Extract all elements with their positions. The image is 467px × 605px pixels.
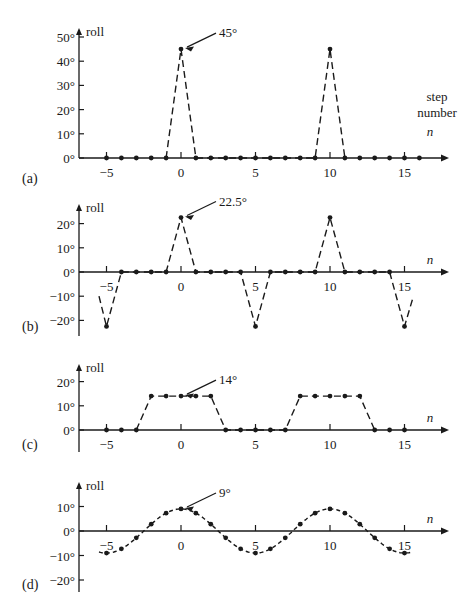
- data-point: [387, 270, 392, 275]
- data-point: [298, 270, 303, 275]
- data-point: [164, 270, 169, 275]
- annotation-arrow: [187, 202, 216, 216]
- data-point: [194, 156, 199, 161]
- y-tick-label: 0°: [63, 151, 75, 166]
- x-axis-arrow-icon: [441, 155, 449, 162]
- data-point: [283, 428, 288, 433]
- y-tick-label: 40°: [57, 54, 75, 69]
- panel-label: (b): [22, 319, 39, 335]
- data-point: [328, 215, 333, 220]
- plots-canvas: rollstepnumbern0°10°20°30°40°50°−5051015…: [0, 0, 467, 605]
- x-axis-label-n: n: [427, 252, 434, 267]
- data-point: [119, 546, 124, 551]
- x-tick-label: 0: [178, 165, 185, 180]
- y-axis-arrow-icon: [76, 204, 82, 211]
- y-tick-label: −10°: [49, 549, 75, 564]
- data-point: [134, 428, 139, 433]
- y-tick-label: 10°: [57, 500, 75, 515]
- annotation-label: 9°: [219, 485, 231, 500]
- y-tick-label: −20°: [49, 573, 75, 588]
- data-point: [283, 270, 288, 275]
- data-point: [298, 394, 303, 399]
- data-point: [149, 156, 154, 161]
- data-point: [179, 47, 184, 52]
- y-tick-label: 20°: [57, 217, 75, 232]
- data-point: [372, 428, 377, 433]
- data-point: [387, 428, 392, 433]
- annotation-label: 14°: [219, 372, 237, 387]
- y-tick-label: 10°: [57, 127, 75, 142]
- y-tick-label: −10°: [49, 289, 75, 304]
- data-point: [238, 270, 243, 275]
- panel-label: (a): [22, 171, 38, 187]
- panel-d: rolln−20°−10°0°10°−50510159°(d): [22, 478, 449, 593]
- x-axis-label-line2: number: [417, 105, 457, 120]
- data-point: [149, 522, 154, 527]
- annotation-arrowhead-icon: [185, 215, 194, 220]
- data-point: [223, 270, 228, 275]
- panel-a: rollstepnumbern0°10°20°30°40°50°−5051015…: [22, 24, 458, 187]
- data-point: [104, 428, 109, 433]
- data-point: [372, 270, 377, 275]
- data-point: [357, 270, 362, 275]
- panel-c: rolln0°10°20°−505101514°(c): [22, 360, 449, 453]
- data-point: [134, 270, 139, 275]
- data-point: [164, 394, 169, 399]
- data-point: [387, 546, 392, 551]
- y-tick-label: −20°: [49, 313, 75, 328]
- data-point: [268, 546, 273, 551]
- annotation-label: 45°: [219, 25, 237, 40]
- data-point: [402, 156, 407, 161]
- data-point: [298, 156, 303, 161]
- x-tick-label: 0: [178, 538, 185, 553]
- data-point: [119, 270, 124, 275]
- y-tick-label: 0°: [63, 423, 75, 438]
- data-point: [238, 546, 243, 551]
- data-point: [208, 270, 213, 275]
- y-axis-arrow-icon: [76, 28, 82, 35]
- x-tick-label: 0: [178, 279, 185, 294]
- dashed-roll-curve: [166, 49, 345, 158]
- data-point: [164, 156, 169, 161]
- y-axis-label: roll: [86, 24, 104, 39]
- data-point: [372, 535, 377, 540]
- x-tick-label: 5: [252, 165, 259, 180]
- data-point: [313, 511, 318, 516]
- y-axis-label: roll: [86, 360, 104, 375]
- data-point: [104, 156, 109, 161]
- panel-b: rolln−20°−10°0°10°20°−505101522.5°(b): [22, 194, 449, 336]
- y-axis-arrow-icon: [76, 364, 82, 371]
- data-point: [164, 511, 169, 516]
- y-tick-label: 0°: [63, 524, 75, 539]
- data-point: [268, 156, 273, 161]
- x-tick-label: 15: [398, 437, 411, 452]
- x-axis-arrow-icon: [441, 269, 449, 276]
- data-point: [179, 394, 184, 399]
- data-point: [149, 394, 154, 399]
- x-tick-label: 10: [324, 165, 337, 180]
- data-point: [328, 507, 333, 512]
- data-point: [119, 156, 124, 161]
- x-tick-label: 15: [398, 165, 411, 180]
- data-point: [313, 394, 318, 399]
- x-axis-arrow-icon: [441, 528, 449, 535]
- data-point: [417, 156, 422, 161]
- x-tick-label: −5: [100, 165, 114, 180]
- data-point: [194, 511, 199, 516]
- x-tick-label: 10: [324, 538, 337, 553]
- annotation-arrow: [187, 493, 216, 507]
- y-axis-arrow-icon: [76, 482, 82, 489]
- data-point: [208, 522, 213, 527]
- data-point: [134, 156, 139, 161]
- data-point: [343, 511, 348, 516]
- data-point: [357, 394, 362, 399]
- data-point: [268, 270, 273, 275]
- data-point: [402, 428, 407, 433]
- data-point: [238, 428, 243, 433]
- x-axis-label-n: n: [427, 511, 434, 526]
- data-point: [194, 270, 199, 275]
- y-tick-label: 10°: [57, 399, 75, 414]
- roll-step-plots-figure: rollstepnumbern0°10°20°30°40°50°−5051015…: [0, 0, 467, 605]
- data-point: [238, 156, 243, 161]
- data-point: [119, 428, 124, 433]
